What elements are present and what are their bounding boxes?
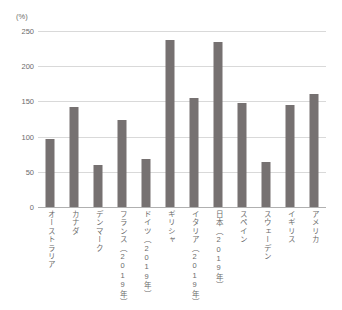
bar-slot [278,31,302,207]
y-axis-unit-label: (%) [16,12,28,21]
x-axis-label-slot: デンマーク [86,210,110,252]
gridline [38,207,326,208]
bar-slot [38,31,62,207]
bar [238,103,247,207]
x-axis-label: オーストラリア [46,210,54,269]
x-axis-label-slot: スペイン [230,210,254,244]
x-axis-label: ドイツ（2019年） [142,210,150,298]
bars [38,31,326,207]
bar [214,42,223,207]
y-axis-tick-label: 250 [21,27,34,36]
bar [190,98,199,207]
bar-slot [230,31,254,207]
y-axis-tick-label: 0 [30,203,34,212]
x-axis-label-slot: ドイツ（2019年） [134,210,158,298]
bar-chart-figure: (%) 050100150200250 オーストラリアカナダデンマークフランス（… [0,0,342,310]
bar [310,94,319,207]
bar-slot [182,31,206,207]
x-axis-label: デンマーク [94,210,102,252]
bar-slot [302,31,326,207]
x-axis-label: イギリス [286,210,294,244]
x-axis-label: アメリカ [310,210,318,244]
bar [70,107,79,207]
x-axis-label: ギリシャ [166,210,174,244]
y-axis-tick-label: 50 [26,167,34,176]
x-axis-label-slot: アメリカ [302,210,326,244]
x-axis-labels: オーストラリアカナダデンマークフランス（2019年）ドイツ（2019年）ギリシャ… [38,210,326,306]
bar [142,159,151,207]
bar-slot [62,31,86,207]
x-axis-label: スウェーデン [262,210,270,260]
y-axis-tick-label: 150 [21,97,34,106]
bar-slot [86,31,110,207]
bar-slot [110,31,134,207]
y-axis-tick-label: 200 [21,62,34,71]
x-axis-label-slot: オーストラリア [38,210,62,269]
plot-area: 050100150200250 [38,31,326,207]
x-axis-label-slot: ギリシャ [158,210,182,244]
bar [286,105,295,207]
x-axis-label-slot: 日本（2019年） [206,210,230,290]
x-axis-label-slot: スウェーデン [254,210,278,260]
bar [118,120,127,207]
x-axis-label: イタリア（2019年） [190,210,198,306]
x-axis-label: 日本（2019年） [214,210,222,290]
x-axis-label-slot: フランス（2019年） [110,210,134,306]
x-axis-label-slot: イタリア（2019年） [182,210,206,306]
bar [166,40,175,207]
x-axis-label-slot: カナダ [62,210,86,235]
x-axis-label: スペイン [238,210,246,244]
bar-slot [158,31,182,207]
bar [94,165,103,207]
y-axis-tick-label: 100 [21,132,34,141]
x-axis-label: フランス（2019年） [118,210,126,306]
bar [46,139,55,207]
x-axis-label-slot: イギリス [278,210,302,244]
bar-slot [206,31,230,207]
bar [262,162,271,207]
bar-slot [134,31,158,207]
bar-slot [254,31,278,207]
x-axis-label: カナダ [70,210,78,235]
